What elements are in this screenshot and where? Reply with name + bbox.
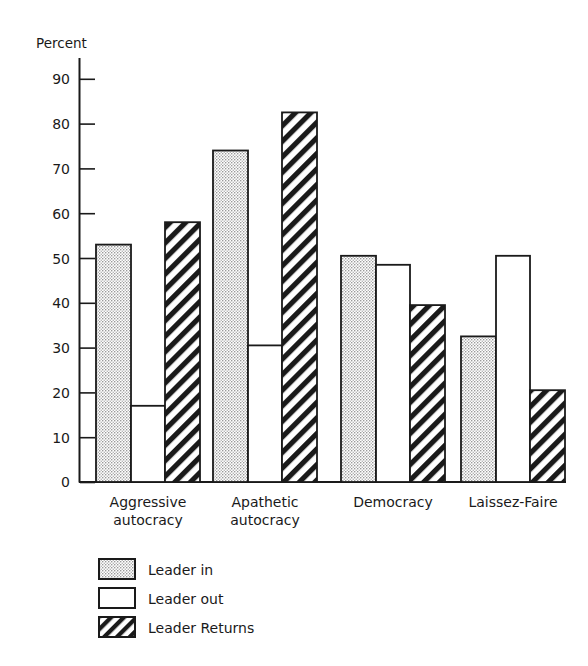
legend-item-leader-returns: Leader Returns: [99, 617, 254, 637]
x-axis-category-labels: Aggressive autocracy Apathetic autocracy…: [110, 494, 558, 528]
y-axis-ticks: [80, 79, 95, 482]
legend-swatch-leader-returns: [99, 617, 135, 637]
bar-aggressive-leader-out: [131, 406, 165, 482]
cat-label-democracy: Democracy: [353, 494, 433, 510]
chart-figure: Percent 0 10 20 30 40 50 60 70 80: [0, 0, 588, 666]
y-tick-label-60: 60: [52, 206, 70, 222]
bar-chart-svg: Percent 0 10 20 30 40 50 60 70 80: [0, 0, 588, 666]
legend-label-leader-out: Leader out: [148, 591, 224, 607]
chart-legend: Leader in Leader out Leader Returns: [99, 559, 254, 637]
legend-item-leader-in: Leader in: [99, 559, 213, 579]
y-tick-label-70: 70: [52, 161, 70, 177]
bar-apathetic-leader-returns: [282, 112, 317, 482]
bar-group-aggressive-autocracy: [96, 222, 200, 482]
bar-group-apathetic-autocracy: [213, 112, 317, 482]
bar-laissez-faire-leader-out: [496, 256, 530, 482]
legend-item-leader-out: Leader out: [99, 588, 224, 608]
y-tick-label-30: 30: [52, 340, 70, 356]
bar-democracy-leader-returns: [410, 305, 445, 482]
bar-group-laissez-faire: [461, 256, 565, 482]
cat-label-aggressive-line2: autocracy: [113, 512, 183, 528]
bar-democracy-leader-out: [376, 265, 410, 482]
bar-aggressive-leader-returns: [165, 222, 200, 482]
y-tick-label-40: 40: [52, 295, 70, 311]
y-tick-label-20: 20: [52, 385, 70, 401]
y-tick-label-0: 0: [61, 474, 70, 490]
legend-swatch-leader-out: [99, 588, 135, 608]
bar-group-democracy: [341, 256, 445, 482]
bar-laissez-faire-leader-in: [461, 336, 496, 482]
legend-label-leader-in: Leader in: [148, 562, 213, 578]
bar-apathetic-leader-in: [213, 151, 248, 483]
bar-aggressive-leader-in: [96, 245, 131, 482]
y-tick-label-90: 90: [52, 71, 70, 87]
y-axis-tick-labels: 0 10 20 30 40 50 60 70 80 90: [52, 71, 70, 490]
bar-democracy-leader-in: [341, 256, 376, 482]
legend-swatch-leader-in: [99, 559, 135, 579]
y-tick-label-80: 80: [52, 116, 70, 132]
bar-laissez-faire-leader-returns: [530, 390, 565, 482]
legend-label-leader-returns: Leader Returns: [148, 620, 254, 636]
y-tick-label-50: 50: [52, 251, 70, 267]
cat-label-apathetic-line2: autocracy: [230, 512, 300, 528]
y-axis-title: Percent: [36, 35, 87, 51]
cat-label-laissez-faire: Laissez-Faire: [468, 494, 557, 510]
y-tick-label-10: 10: [52, 430, 70, 446]
cat-label-aggressive-line1: Aggressive: [110, 494, 187, 510]
bar-apathetic-leader-out: [248, 345, 282, 482]
cat-label-apathetic-line1: Apathetic: [231, 494, 298, 510]
